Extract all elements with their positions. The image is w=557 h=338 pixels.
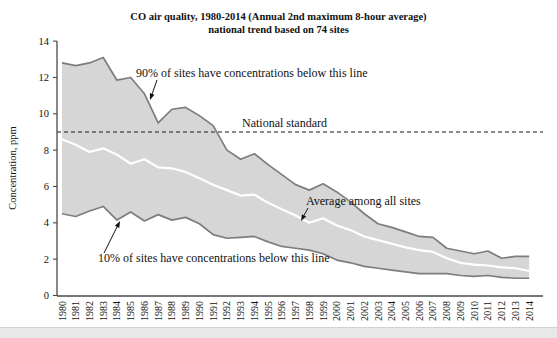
annotation-p90: 90% of sites have concentrations below t… [136,66,368,80]
annotation-p90-arrow-shaft [152,80,157,94]
x-tick-label: 1980 [57,301,68,321]
co-air-quality-figure: CO air quality, 1980-2014 (Annual 2nd ma… [0,0,557,338]
x-tick-label: 2001 [345,301,356,321]
chart-canvas: 02468101214Concentration, ppm19801981198… [0,0,557,338]
x-tick-label: 1997 [290,301,301,321]
percentile-band [62,57,529,278]
x-tick-label: 1996 [276,301,287,321]
x-tick-label: 2013 [510,301,521,321]
x-tick-label: 2012 [496,301,507,321]
annotation-avg: Average among all sites [306,194,421,208]
y-tick-label: 10 [39,108,50,119]
x-tick-label: 1981 [70,301,81,321]
x-tick-label: 2004 [386,301,397,321]
footer-strip [0,327,557,338]
x-tick-label: 1984 [111,301,122,321]
annotation-standard: National standard [242,116,327,130]
x-tick-label: 1992 [221,301,232,321]
y-tick-label: 6 [44,181,49,192]
x-tick-label: 2014 [524,301,535,321]
x-tick-label: 1991 [208,301,219,321]
x-tick-label: 2007 [427,301,438,321]
y-tick-label: 2 [44,254,49,265]
x-tick-label: 2000 [331,301,342,321]
y-axis-title: Concentration, ppm [7,126,18,209]
x-tick-label: 1995 [263,301,274,321]
x-tick-label: 1993 [235,301,246,321]
y-tick-label: 12 [39,72,50,83]
x-tick-label: 1986 [139,301,150,321]
x-tick-label: 2010 [469,301,480,321]
x-tick-label: 1985 [125,301,136,321]
x-tick-label: 1989 [180,301,191,321]
y-tick-label: 14 [39,36,50,47]
annotation-p10-arrow-shaft [104,227,117,253]
y-tick-label: 4 [44,217,50,228]
x-tick-label: 1994 [249,301,260,321]
x-tick-label: 2009 [455,301,466,321]
x-tick-label: 1990 [194,301,205,321]
x-tick-label: 2002 [359,301,370,321]
x-tick-label: 2003 [373,301,384,321]
x-tick-label: 2006 [414,301,425,321]
x-tick-label: 1998 [304,301,315,321]
y-tick-label: 8 [44,145,49,156]
x-tick-label: 1999 [318,301,329,321]
annotation-p10: 10% of sites have concentrations below t… [98,251,330,265]
x-tick-label: 2008 [441,301,452,321]
y-tick-label: 0 [44,290,49,301]
x-tick-label: 2005 [400,301,411,321]
x-tick-label: 1987 [153,301,164,321]
x-tick-label: 1988 [166,301,177,321]
x-tick-label: 1982 [84,301,95,321]
annotation-p90-arrow-head [150,93,155,100]
x-tick-label: 1983 [98,301,109,321]
annotation-p10-arrow-head [115,221,120,228]
x-tick-label: 2011 [482,301,493,321]
